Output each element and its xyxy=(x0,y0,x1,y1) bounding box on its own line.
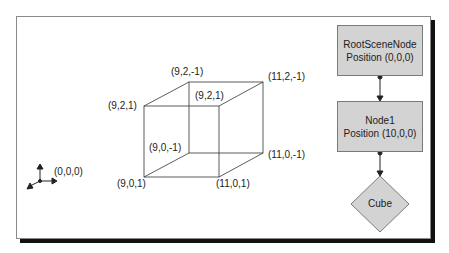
vertex-label-back-bottom-left: (9,0,-1) xyxy=(149,143,181,153)
node-position: Position (10,0,0) xyxy=(344,127,417,140)
node1: Node1 Position (10,0,0) xyxy=(337,101,423,152)
vertex-label-back-top-right: (11,2,-1) xyxy=(268,72,305,82)
root-scene-node: RootSceneNode Position (0,0,0) xyxy=(337,25,423,76)
vertex-label-front-bottom-right: (11,0,1) xyxy=(216,179,250,189)
cube-entity-label: Cube xyxy=(351,198,409,209)
node-position: Position (0,0,0) xyxy=(346,51,413,64)
axis-gizmo-icon xyxy=(27,164,57,189)
vertex-label-front-top-right: (9,2,1) xyxy=(195,91,224,101)
origin-label: (0,0,0) xyxy=(54,167,83,177)
vertex-label-front-bottom-left: (9,0,1) xyxy=(117,179,146,189)
vertex-label-back-bottom-right: (11,0,-1) xyxy=(268,150,305,160)
node-name: Node1 xyxy=(365,114,394,127)
vertex-label-back-top-left: (9,2,-1) xyxy=(171,67,203,77)
node-name: RootSceneNode xyxy=(343,38,416,51)
vertex-label-front-top-left: (9,2,1) xyxy=(108,101,137,111)
